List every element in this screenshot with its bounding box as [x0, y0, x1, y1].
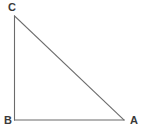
triangle-diagram	[0, 0, 147, 136]
vertex-label-a: A	[130, 115, 138, 126]
geometry-figure: C B A	[0, 0, 147, 136]
vertex-label-b: B	[4, 115, 12, 126]
figure-background	[0, 0, 147, 136]
vertex-label-c: C	[8, 2, 16, 13]
